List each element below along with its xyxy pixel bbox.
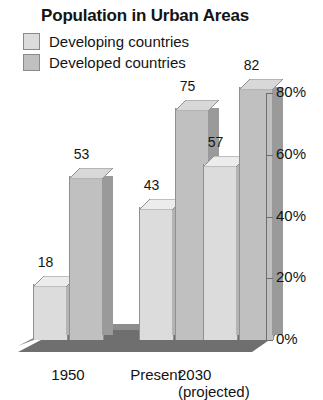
bar-front-face (69, 176, 104, 340)
chart-container: Population in Urban Areas Developing cou… (0, 0, 323, 400)
bar-value-label: 82 (235, 57, 268, 73)
bar-top-face (69, 165, 113, 176)
y-axis-tick-label: 20% (276, 268, 306, 285)
x-axis-category-label: 2030(projected) (178, 366, 270, 400)
bar-front-face (33, 284, 68, 340)
y-axis-tick (266, 217, 273, 218)
bar-front-face (239, 87, 274, 340)
bar-top-face (175, 97, 219, 108)
y-axis-tick (266, 93, 273, 94)
bar-value-label: 53 (65, 146, 98, 162)
bar-value-label: 43 (135, 177, 168, 193)
bar-2030-developed (239, 76, 272, 340)
y-axis-tick (266, 155, 273, 156)
bar-value-label: 18 (29, 254, 62, 270)
y-axis-tick (266, 278, 273, 279)
bar-2030-developing (203, 153, 236, 340)
category-label-text: Present (130, 366, 182, 383)
x-axis-category-label: 1950 (22, 366, 114, 383)
plot-area: 185343755782 (0, 0, 323, 400)
category-sublabel-text: (projected) (178, 383, 250, 400)
y-axis-tick (266, 340, 273, 341)
category-label-text: 1950 (51, 366, 84, 383)
bar-1950-developing (33, 273, 66, 340)
y-axis-tick-label: 0% (276, 330, 298, 347)
bar-front-face (139, 207, 174, 340)
category-label-text: 2030 (178, 366, 211, 383)
y-axis-tick-label: 60% (276, 145, 306, 162)
bar-front-face (203, 164, 238, 340)
y-axis-tick-label: 80% (276, 83, 306, 100)
bar-side-face (102, 176, 113, 335)
bar-1950-developed (69, 165, 102, 340)
bar-value-label: 75 (171, 78, 204, 94)
bar-value-label: 57 (199, 134, 232, 150)
y-axis-tick-label: 40% (276, 207, 306, 224)
bar-Present-developing (139, 196, 172, 340)
